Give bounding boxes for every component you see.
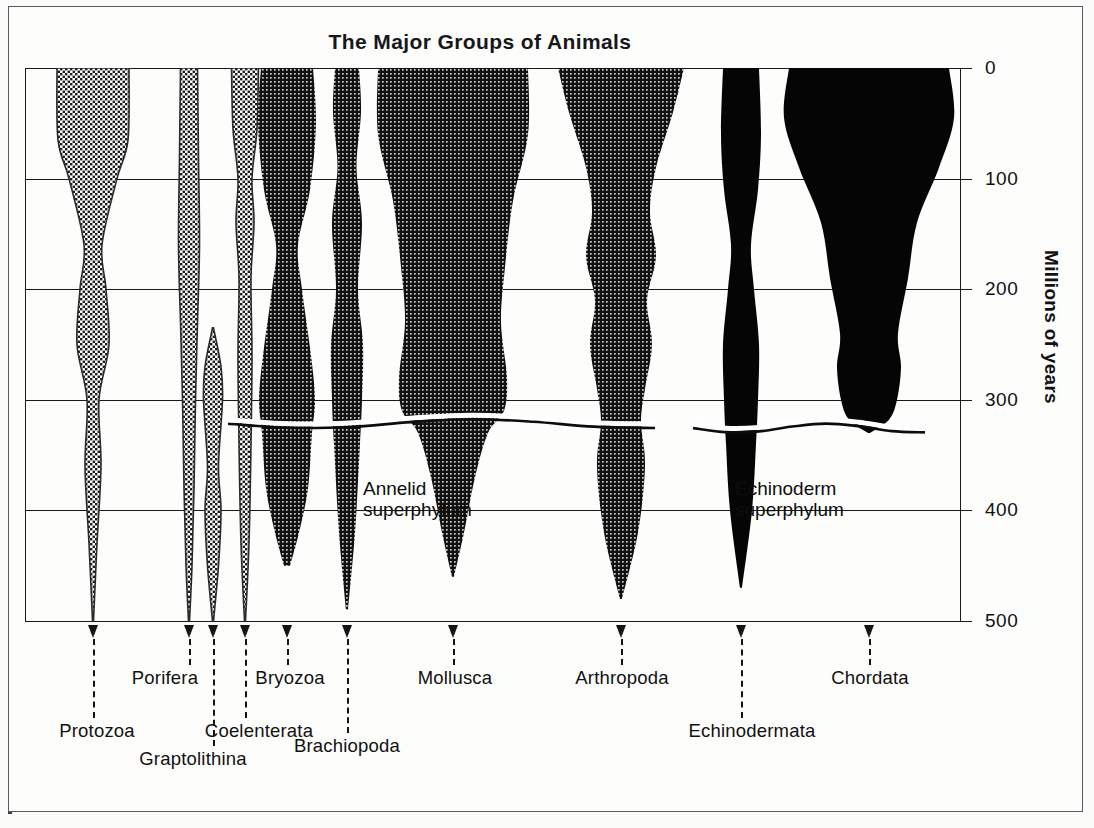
y-tick-label-100: 100	[985, 168, 1018, 190]
taxon-label-chordata: Chordata	[831, 667, 909, 689]
y-tick-label-200: 200	[985, 278, 1018, 300]
y-tick-label-0: 0	[985, 57, 996, 79]
taxon-label-brachiopoda: Brachiopoda	[294, 735, 400, 757]
arrowhead-graptolithina	[208, 625, 218, 638]
spindle-arthropoda	[558, 68, 684, 599]
annelid-superphylum-label: Annelid superphylum	[363, 478, 472, 521]
y-tick-100	[960, 179, 972, 180]
arrowhead-echinodermata	[736, 625, 746, 638]
spindle-porifera	[178, 68, 199, 621]
taxon-label-protozoa: Protozoa	[59, 720, 135, 742]
y-tick-label-400: 400	[985, 499, 1018, 521]
taxon-label-bryozoa: Bryozoa	[255, 667, 324, 689]
figure-page: The Major Groups of Animals Millions of …	[0, 0, 1094, 828]
arrowhead-bryozoa	[282, 625, 292, 638]
arrowhead-mollusca	[448, 625, 458, 638]
taxon-label-echinodermata: Echinodermata	[688, 720, 815, 742]
y-axis-title: Millions of years	[1040, 250, 1062, 404]
spindle-diagram-svg	[25, 68, 960, 623]
spindle-protozoa	[57, 68, 129, 621]
spindle-brachiopoda	[331, 68, 363, 610]
leader-line-porifera	[189, 639, 191, 665]
arrowhead-arthropoda	[616, 625, 626, 638]
spindle-shapes-layer	[25, 68, 960, 621]
leader-line-bryozoa	[287, 639, 289, 665]
y-tick-500	[960, 621, 972, 622]
y-tick-label-500: 500	[985, 610, 1018, 632]
y-tick-label-300: 300	[985, 389, 1018, 411]
leader-line-protozoa	[93, 639, 95, 718]
taxon-label-arthropoda: Arthropoda	[575, 667, 669, 689]
y-tick-300	[960, 400, 972, 401]
taxon-label-graptolithina: Graptolithina	[139, 748, 247, 770]
taxon-label-mollusca: Mollusca	[418, 667, 493, 689]
arrowhead-brachiopoda	[342, 625, 352, 638]
spindle-coelenterata	[232, 68, 259, 621]
y-tick-200	[960, 289, 972, 290]
spindle-chordata	[784, 68, 955, 433]
leader-line-arthropoda	[621, 639, 623, 665]
arrowhead-protozoa	[88, 625, 98, 638]
leader-line-echinodermata	[741, 639, 743, 718]
arrowhead-chordata	[864, 625, 874, 638]
arrowhead-porifera	[184, 625, 194, 638]
echinoderm-superphylum-label: Echinoderm superphylum	[735, 478, 844, 521]
page-title: The Major Groups of Animals	[0, 30, 960, 54]
taxon-label-porifera: Porifera	[132, 667, 198, 689]
spindle-graptolithina	[203, 328, 222, 621]
axis-line-right	[960, 68, 961, 621]
spindle-bryozoa	[258, 68, 316, 566]
y-tick-400	[960, 510, 972, 511]
leader-line-brachiopoda	[347, 639, 349, 733]
leader-line-coelenterata	[245, 639, 247, 718]
arrowhead-coelenterata	[240, 625, 250, 638]
y-tick-0	[960, 68, 972, 69]
leader-line-mollusca	[453, 639, 455, 665]
leader-line-chordata	[869, 639, 871, 665]
